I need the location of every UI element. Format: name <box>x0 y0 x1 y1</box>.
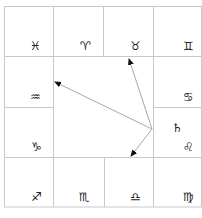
sign-sagittarius-icon: ♐︎ <box>31 191 42 203</box>
sign-leo-icon: ♌︎ <box>183 141 194 153</box>
chart-grid <box>0 0 202 218</box>
sign-scorpio-icon: ♏︎ <box>79 191 90 203</box>
sign-libra-icon: ♎︎ <box>130 191 141 203</box>
sign-pisces-icon: ♓︎ <box>30 40 41 52</box>
sign-aries-icon: ♈︎ <box>80 40 91 52</box>
aspect-arrows <box>55 59 152 156</box>
sign-cancer-icon: ♋︎ <box>183 91 194 103</box>
grid-lines <box>5 7 202 208</box>
zodiac-chart: ♓︎♈︎♉︎♊︎♋︎♌︎♍︎♎︎♏︎♐︎♑︎♒︎ ♄ <box>0 0 202 218</box>
sign-virgo-icon: ♍︎ <box>183 191 194 203</box>
aspect-arrow-aquarius <box>55 82 152 129</box>
sign-gemini-icon: ♊︎ <box>183 40 194 52</box>
sign-aquarius-icon: ♒︎ <box>30 91 41 103</box>
planet-saturn-icon: ♄ <box>172 122 183 134</box>
sign-capricorn-icon: ♑︎ <box>31 141 42 153</box>
sign-taurus-icon: ♉︎ <box>130 40 141 52</box>
aspect-arrow-libra <box>131 129 152 156</box>
aspect-arrow-taurus <box>129 59 152 129</box>
